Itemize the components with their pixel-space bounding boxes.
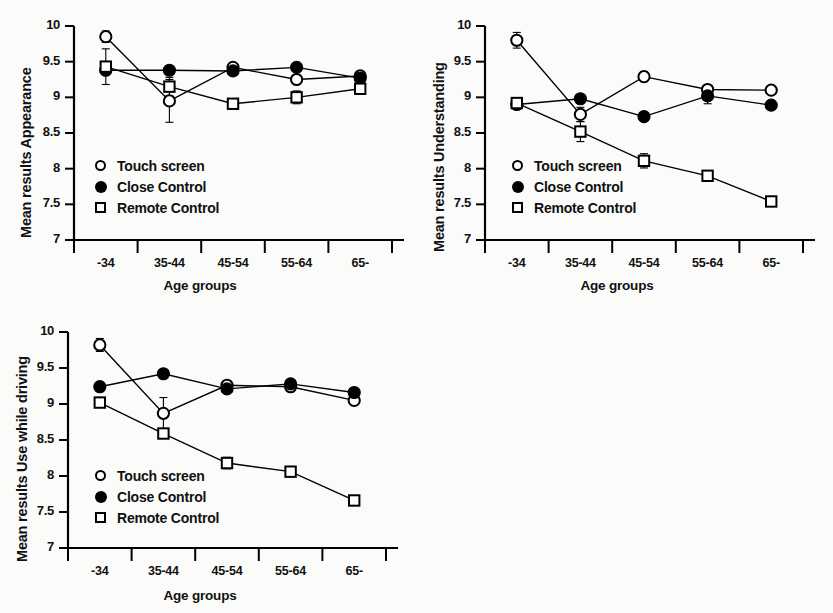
x-axis-label-understanding: Age groups <box>447 278 787 293</box>
x-tick-label: -34 <box>65 564 135 578</box>
x-tick-label: 35-44 <box>128 564 198 578</box>
x-tick-label: 55-64 <box>256 564 326 578</box>
y-tick-label: 9.5 <box>12 53 60 68</box>
x-tick-label: -34 <box>71 256 141 270</box>
y-tick-label: 7 <box>6 539 54 554</box>
x-axis-label-driving: Age groups <box>30 588 370 603</box>
legend-understanding: Touch screen Close Control Remote Contro… <box>512 155 636 218</box>
x-tick-label: 65- <box>319 564 389 578</box>
circle-filled-icon <box>95 181 117 193</box>
data-point-marker <box>285 378 297 390</box>
x-tick-label: 45-54 <box>198 256 268 270</box>
chart-panel-appearance: Mean results Appearance Age groups Touch… <box>0 0 416 300</box>
circle-filled-icon <box>95 491 117 503</box>
data-point-marker <box>222 458 232 468</box>
x-tick-label: -34 <box>482 256 552 270</box>
data-point-marker <box>702 171 712 181</box>
data-point-marker <box>355 84 365 94</box>
y-tick-label: 9.5 <box>423 53 471 68</box>
legend-driving: Touch screen Close Control Remote Contro… <box>95 465 219 528</box>
legend-label: Touch screen <box>117 158 205 174</box>
data-point-marker <box>221 383 233 395</box>
data-point-marker <box>702 90 714 102</box>
x-tick-label: 55-64 <box>262 256 332 270</box>
square-open-icon <box>95 512 117 523</box>
legend-item-close-control: Close Control <box>95 486 219 507</box>
y-tick-label: 7.5 <box>6 503 54 518</box>
y-tick-label: 8 <box>423 160 471 175</box>
circle-filled-icon <box>512 181 534 193</box>
x-tick-label: 55-64 <box>673 256 743 270</box>
x-tick-label: 65- <box>736 256 806 270</box>
data-point-marker <box>766 85 777 96</box>
x-tick-label: 35-44 <box>134 256 204 270</box>
y-tick-label: 9 <box>6 395 54 410</box>
data-point-marker <box>766 196 776 206</box>
y-tick-label: 8 <box>6 467 54 482</box>
y-tick-label: 7 <box>12 231 60 246</box>
data-point-marker <box>164 95 175 106</box>
chart-panel-driving: Mean results Use while driving Age group… <box>0 300 416 613</box>
y-tick-label: 8.5 <box>12 124 60 139</box>
data-point-marker <box>163 64 175 76</box>
data-point-marker <box>100 31 111 42</box>
plot-area-appearance <box>0 0 416 300</box>
data-point-marker <box>95 397 105 407</box>
data-point-marker <box>164 81 174 91</box>
data-point-marker <box>511 35 522 46</box>
y-tick-label: 9 <box>12 88 60 103</box>
circle-open-icon <box>512 160 534 171</box>
data-point-marker <box>512 98 522 108</box>
legend-label: Touch screen <box>117 468 205 484</box>
legend-item-remote-control: Remote Control <box>95 197 219 218</box>
y-tick-label: 10 <box>6 323 54 338</box>
x-tick-label: 65- <box>325 256 395 270</box>
data-point-marker <box>574 93 586 105</box>
legend-label: Close Control <box>117 179 206 195</box>
legend-item-touch-screen: Touch screen <box>512 155 636 176</box>
data-point-marker <box>94 339 105 350</box>
circle-open-icon <box>95 470 117 481</box>
legend-label: Remote Control <box>117 200 219 216</box>
data-point-marker <box>765 99 777 111</box>
square-open-icon <box>512 202 534 213</box>
legend-label: Remote Control <box>117 510 219 526</box>
chart-panel-understanding: Mean results Understanding Age groups To… <box>417 0 833 300</box>
legend-label: Close Control <box>534 179 623 195</box>
data-point-marker <box>94 381 106 393</box>
legend-item-close-control: Close Control <box>95 176 219 197</box>
y-tick-label: 8.5 <box>6 431 54 446</box>
x-axis-label-appearance: Age groups <box>30 278 370 293</box>
legend-appearance: Touch screen Close Control Remote Contro… <box>95 155 219 218</box>
y-tick-label: 10 <box>12 17 60 32</box>
data-point-marker <box>227 65 239 77</box>
y-tick-label: 9.5 <box>6 359 54 374</box>
y-tick-label: 7 <box>423 231 471 246</box>
data-point-marker <box>638 111 650 123</box>
data-point-marker <box>575 109 586 120</box>
y-tick-label: 9 <box>423 88 471 103</box>
data-point-marker <box>354 72 366 84</box>
legend-item-close-control: Close Control <box>512 176 636 197</box>
data-point-marker <box>349 495 359 505</box>
data-point-marker <box>638 71 649 82</box>
data-point-marker <box>575 126 585 136</box>
y-tick-label: 8.5 <box>423 124 471 139</box>
data-point-marker <box>158 428 168 438</box>
data-point-marker <box>101 61 111 71</box>
circle-open-icon <box>95 160 117 171</box>
legend-item-touch-screen: Touch screen <box>95 465 219 486</box>
square-open-icon <box>95 202 117 213</box>
y-tick-label: 10 <box>423 17 471 32</box>
legend-label: Remote Control <box>534 200 636 216</box>
legend-item-remote-control: Remote Control <box>95 507 219 528</box>
data-point-marker <box>228 99 238 109</box>
data-point-marker <box>291 92 301 102</box>
x-tick-label: 45-54 <box>609 256 679 270</box>
y-tick-label: 7.5 <box>12 195 60 210</box>
legend-item-touch-screen: Touch screen <box>95 155 219 176</box>
legend-label: Touch screen <box>534 158 622 174</box>
x-tick-label: 35-44 <box>545 256 615 270</box>
data-point-marker <box>285 466 295 476</box>
legend-item-remote-control: Remote Control <box>512 197 636 218</box>
